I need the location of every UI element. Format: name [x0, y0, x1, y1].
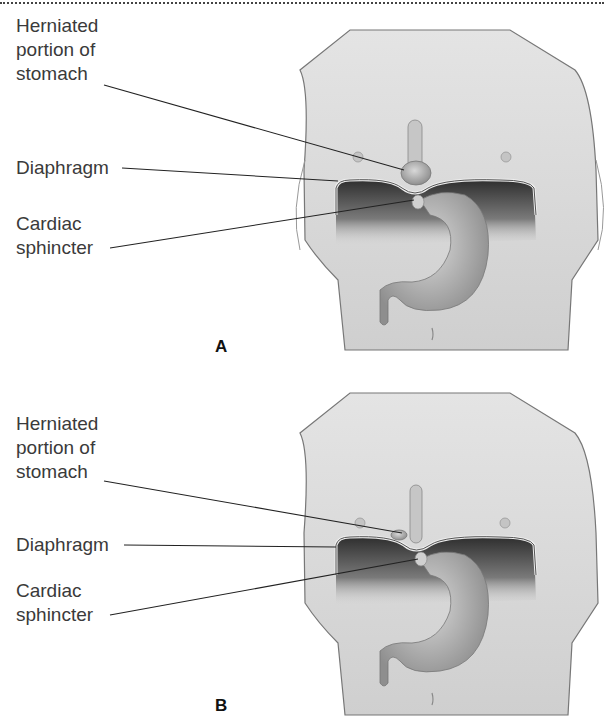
esophagus	[410, 485, 422, 543]
label-herniated-portion: Herniated portion of stomach	[16, 14, 98, 86]
panel-a-hiatal-hernia: Herniated portion of stomach Diaphragm C…	[0, 10, 604, 365]
herniated-stomach-portion	[401, 161, 431, 185]
panel-letter-b: B	[215, 696, 227, 716]
top-dotted-rule	[0, 2, 604, 4]
panel-b-hiatal-hernia: Herniated portion of stomach Diaphragm C…	[0, 375, 604, 720]
label-diaphragm: Diaphragm	[16, 156, 109, 180]
cardiac-sphincter	[412, 195, 424, 209]
label-herniated-portion: Herniated portion of stomach	[16, 412, 98, 484]
panel-letter-a: A	[215, 337, 227, 357]
label-cardiac-sphincter: Cardiac sphincter	[16, 579, 93, 627]
label-diaphragm: Diaphragm	[16, 533, 109, 557]
label-cardiac-sphincter: Cardiac sphincter	[16, 212, 93, 260]
